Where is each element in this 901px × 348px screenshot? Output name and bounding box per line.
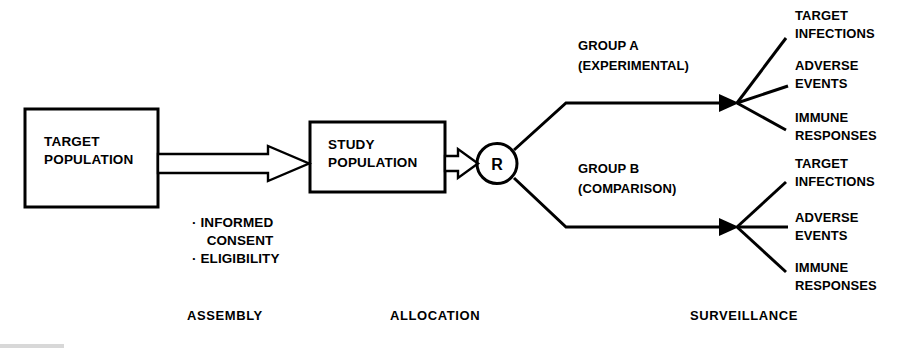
group-a-branch-line [514, 103, 726, 150]
study-population-label-line1: STUDY [328, 137, 375, 152]
group-b-outcome-target-infections-line1: TARGET [795, 156, 848, 171]
group-b-outcome-immune-responses-line1: IMMUNE [795, 260, 849, 275]
assembly-block-arrow [158, 146, 309, 181]
group-b-outcome-adverse-events-line2: EVENTS [795, 228, 848, 243]
group-a-arrowhead [719, 94, 739, 112]
group-a-label-line1: GROUP A [578, 38, 639, 53]
group-b-fan-line-target-infections [737, 182, 786, 227]
group-b-outcome-immune-responses-line2: RESPONSES [795, 278, 877, 293]
group-a-fan-line-immune-responses [737, 103, 786, 130]
group-b-fan-line-immune-responses [737, 227, 786, 272]
group-a-label-line2: (EXPERIMENTAL) [578, 58, 689, 73]
group-a-outcome-target-infections-line2: INFECTIONS [795, 26, 875, 41]
scan-edge-artifact [0, 344, 64, 348]
randomization-symbol: R [491, 156, 503, 173]
study-population-label-line2: POPULATION [328, 155, 418, 170]
group-b-outcome-target-infections-line2: INFECTIONS [795, 174, 875, 189]
group-b-label-line1: GROUP B [578, 161, 639, 176]
allocation-block-arrow [445, 149, 478, 178]
flow-diagram-canvas: TARGET POPULATION · INFORMED CONSENT · E… [0, 0, 901, 348]
group-b-outcome-adverse-events-line1: ADVERSE [795, 210, 859, 225]
stage-label-allocation: ALLOCATION [390, 308, 480, 323]
target-population-label-line2: POPULATION [44, 152, 134, 167]
stage-label-assembly: ASSEMBLY [187, 308, 263, 323]
criteria-informed-consent-line2: CONSENT [207, 233, 274, 248]
group-a-fan-line-target-infections [737, 38, 786, 103]
group-a-outcome-adverse-events-line2: EVENTS [795, 76, 848, 91]
group-a-outcome-immune-responses-line1: IMMUNE [795, 110, 849, 125]
group-b-arrowhead [719, 218, 739, 236]
group-a-outcome-adverse-events-line1: ADVERSE [795, 58, 859, 73]
group-b-label-line2: (COMPARISON) [578, 181, 676, 196]
criteria-informed-consent-line1: · INFORMED [192, 215, 273, 230]
group-a-outcome-target-infections-line1: TARGET [795, 8, 848, 23]
clinical-trial-flow-diagram: TARGET POPULATION · INFORMED CONSENT · E… [0, 0, 901, 348]
criteria-eligibility: · ELIGIBILITY [192, 251, 280, 266]
group-a-outcome-immune-responses-line2: RESPONSES [795, 128, 877, 143]
target-population-label-line1: TARGET [44, 134, 100, 149]
stage-label-surveillance: SURVEILLANCE [690, 308, 798, 323]
